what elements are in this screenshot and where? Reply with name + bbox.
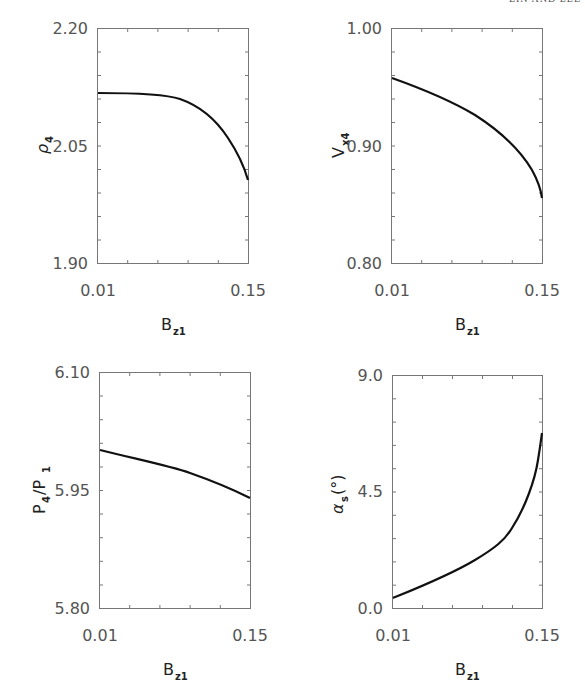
- svg-text:z1: z1: [175, 671, 188, 682]
- data-line: [392, 78, 542, 198]
- ytick-mid: 0.90: [346, 137, 382, 156]
- ytick-bottom: 5.80: [54, 599, 90, 618]
- ytick-bottom: 0.0: [358, 599, 383, 618]
- y-axis-label: α s (°): [328, 475, 350, 514]
- y-axis-label: P 4 /P 1: [30, 466, 52, 514]
- svg-text:4: 4: [41, 496, 52, 503]
- xtick-right: 0.15: [524, 281, 560, 300]
- plot-frame: [393, 376, 543, 609]
- svg-text:z1: z1: [467, 326, 480, 337]
- chart-vx4: V x4 1.00 0.90 0.80 0.01 0.15 B z1: [292, 0, 585, 340]
- svg-text:z1: z1: [467, 671, 480, 682]
- svg-text:(°): (°): [328, 475, 347, 495]
- x-axis-label: B z1: [455, 315, 480, 337]
- xtick-left: 0.01: [375, 626, 411, 645]
- ytick-bottom: 1.90: [52, 254, 88, 273]
- xtick-right: 0.15: [232, 626, 268, 645]
- ytick-top: 6.10: [54, 363, 90, 382]
- xtick-left: 0.01: [80, 281, 116, 300]
- chart-p4-p1: P 4 /P 1 6.10 5.95 5.80 0.01 0.15 B z1: [0, 340, 292, 682]
- data-line: [98, 93, 248, 180]
- x-axis-label: B z1: [455, 660, 480, 682]
- tick-marks: [392, 29, 543, 264]
- data-line: [393, 433, 542, 598]
- tick-marks: [100, 373, 251, 609]
- ytick-top: 9.0: [358, 366, 383, 385]
- svg-text:/P: /P: [30, 480, 49, 495]
- ytick-mid: 5.95: [54, 481, 90, 500]
- tick-marks: [98, 29, 249, 264]
- plot-frame: [392, 29, 543, 264]
- ytick-mid: 2.05: [52, 137, 88, 156]
- svg-text:B: B: [455, 660, 466, 679]
- svg-text:P: P: [30, 504, 49, 514]
- svg-text:s: s: [339, 496, 350, 502]
- data-line: [100, 450, 250, 498]
- svg-text:1: 1: [41, 466, 52, 473]
- svg-text:α: α: [328, 503, 347, 514]
- plot-frame: [98, 29, 249, 264]
- x-axis-label: B z1: [161, 315, 186, 337]
- svg-text:V: V: [329, 147, 348, 158]
- xtick-right: 0.15: [230, 281, 266, 300]
- ytick-top: 2.20: [52, 19, 88, 38]
- tick-marks: [393, 376, 543, 609]
- xtick-left: 0.01: [374, 281, 410, 300]
- svg-text:z1: z1: [173, 326, 186, 337]
- svg-text:B: B: [163, 660, 174, 679]
- svg-text:B: B: [161, 315, 172, 334]
- plot-frame: [100, 373, 251, 609]
- chart-alpha-s: α s (°) 9.0 4.5 0.0 0.01 0.15 B z1: [292, 340, 585, 682]
- svg-text:ρ: ρ: [33, 144, 52, 154]
- ytick-top: 1.00: [346, 19, 382, 38]
- ytick-mid: 4.5: [358, 482, 383, 501]
- chart-rho4: ρ 4 2.20 2.05 1.90 0.01 0.15 B z1: [0, 0, 292, 340]
- xtick-right: 0.15: [524, 626, 560, 645]
- x-axis-label: B z1: [163, 660, 188, 682]
- xtick-left: 0.01: [82, 626, 118, 645]
- svg-text:B: B: [455, 315, 466, 334]
- ytick-bottom: 0.80: [346, 254, 382, 273]
